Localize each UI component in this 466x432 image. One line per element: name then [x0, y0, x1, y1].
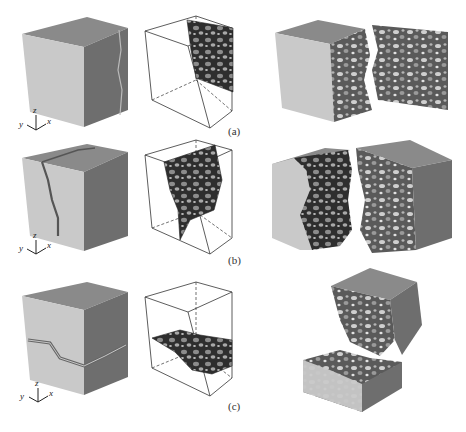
row-c-label: (c)	[228, 400, 241, 413]
svg-text:y: y	[19, 391, 24, 401]
svg-text:y: y	[18, 243, 23, 253]
row-b-crack-wireframe	[145, 140, 232, 254]
row-c-crack-wireframe	[145, 282, 232, 396]
svg-text:x: x	[48, 388, 53, 398]
svg-text:z: z	[34, 378, 39, 388]
svg-text:x: x	[46, 240, 51, 250]
row-a-intact-cube	[22, 17, 128, 127]
row-a-split-specimen	[275, 20, 448, 122]
svg-text:z: z	[32, 105, 37, 115]
figure: z y x (a)	[0, 0, 466, 432]
svg-text:x: x	[46, 116, 51, 126]
row-a-label: (a)	[228, 125, 241, 138]
row-b-label: (b)	[228, 254, 241, 267]
row-c-split-specimen	[303, 268, 422, 412]
row-b-split-specimen	[272, 140, 452, 253]
svg-text:y: y	[18, 119, 23, 129]
row-b-intact-cube	[22, 144, 128, 251]
row-a-crack-wireframe	[145, 16, 233, 128]
figure-graphics: z y x (a)	[0, 0, 466, 432]
svg-text:z: z	[32, 230, 37, 240]
